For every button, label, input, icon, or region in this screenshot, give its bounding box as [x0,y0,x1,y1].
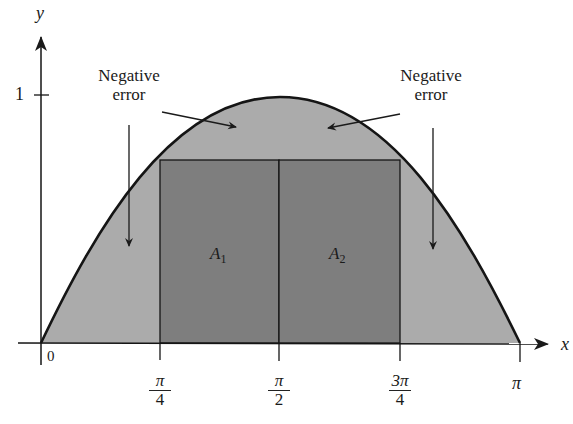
annotation-line: Negative [84,66,174,85]
fraction-numerator: 3π [389,372,411,391]
area-label-subscript: 1 [220,252,226,266]
fraction-numerator: π [149,372,171,391]
y-axis-label: y [36,3,44,24]
annotation-right: Negative error [386,66,476,104]
x-tick-label-pi4: π 4 [140,372,180,409]
x-axis [18,343,548,344]
annotation-line: Negative [386,66,476,85]
fraction-denominator: 4 [380,391,420,409]
x-tick-label-3pi4: 3π 4 [380,372,420,409]
x-tick-label-pi2: π 2 [259,372,299,409]
sine-area-diagram [0,0,573,424]
annotation-left: Negative error [84,66,174,104]
fraction-numerator: π [268,372,290,391]
annotation-line: error [84,85,174,104]
x-tick-label-pi: π [512,373,521,394]
area-label-main: A [210,244,220,263]
fraction-denominator: 2 [259,391,299,409]
y-tick-label-1: 1 [15,84,24,105]
area-label-a1: A1 [210,244,226,267]
fraction-denominator: 4 [140,391,180,409]
origin-label: 0 [47,348,55,365]
area-label-subscript: 2 [339,252,345,266]
annotation-line: error [386,85,476,104]
area-label-a2: A2 [329,244,345,267]
x-axis-label: x [561,334,569,355]
area-label-main: A [329,244,339,263]
